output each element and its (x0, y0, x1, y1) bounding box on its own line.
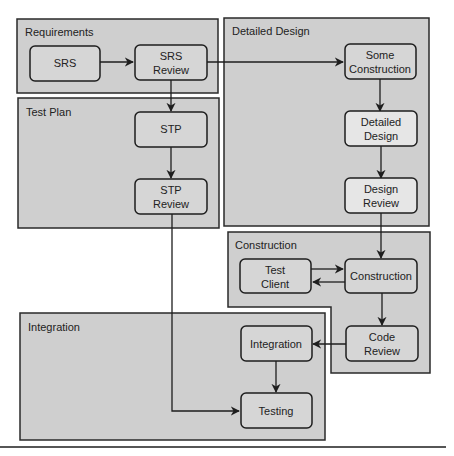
group-label-detailed-design: Detailed Design (232, 25, 310, 37)
node-label: Design (364, 130, 398, 142)
group-label-integration: Integration (28, 321, 80, 333)
node-detailed-design[interactable]: Detailed Design (345, 111, 417, 146)
node-label: Construction (350, 270, 412, 282)
node-label: Code (369, 331, 395, 343)
node-stp-review[interactable]: STP Review (135, 179, 207, 214)
group-label-requirements: Requirements (25, 26, 94, 38)
node-integration[interactable]: Integration (241, 326, 312, 361)
node-construction[interactable]: Construction (345, 259, 417, 293)
node-label: Construction (349, 63, 411, 75)
node-label: Review (153, 64, 189, 76)
node-label: SRS (160, 50, 183, 62)
node-srs-review[interactable]: SRS Review (135, 45, 207, 80)
group-label-construction: Construction (235, 239, 297, 251)
node-label: Review (364, 345, 400, 357)
node-label: Client (261, 278, 289, 290)
node-label: Some (366, 49, 395, 61)
node-label: Testing (259, 405, 294, 417)
node-design-review[interactable]: Design Review (345, 178, 417, 213)
node-label: Review (153, 198, 189, 210)
group-label-test-plan: Test Plan (26, 106, 71, 118)
node-label: Test (265, 264, 285, 276)
node-srs[interactable]: SRS (30, 46, 100, 81)
node-label: STP (160, 123, 181, 135)
node-label: SRS (54, 57, 77, 69)
node-code-review[interactable]: Code Review (346, 326, 418, 361)
process-flow-diagram: Requirements Detailed Design Test Plan C… (0, 0, 454, 456)
node-label: Detailed (361, 116, 401, 128)
node-label: Review (363, 197, 399, 209)
node-testing[interactable]: Testing (241, 393, 312, 428)
node-label: Design (364, 183, 398, 195)
node-test-client[interactable]: Test Client (240, 259, 311, 293)
node-label: Integration (250, 338, 302, 350)
node-stp[interactable]: STP (135, 112, 207, 147)
node-label: STP (160, 184, 181, 196)
node-some-construction[interactable]: Some Construction (345, 44, 416, 79)
